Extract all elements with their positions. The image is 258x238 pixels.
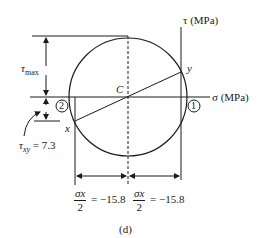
point-y-label: y — [187, 63, 192, 74]
point-x-label: x — [65, 123, 70, 134]
left-dim-value: = −15.8 — [91, 194, 125, 205]
sigma-axis-label: σ (MPa) — [212, 92, 249, 103]
figure-caption: (d) — [119, 224, 132, 235]
left-dim-fraction: σx2 — [74, 188, 86, 213]
right-dim-value: = −15.8 — [150, 194, 184, 205]
right-dim-fraction: σx2 — [133, 188, 145, 213]
tau-xy-leader — [24, 112, 40, 136]
center-label: C — [116, 84, 123, 95]
point-1-label: 1 — [191, 101, 196, 111]
point-2-label: 2 — [59, 101, 64, 111]
tau-max-label: τmax — [21, 63, 39, 77]
tau-xy-label: τxy = 7.3 — [19, 140, 56, 154]
tau-axis-label: τ (MPa) — [183, 15, 218, 26]
mohr-circle-diagram — [0, 0, 258, 238]
